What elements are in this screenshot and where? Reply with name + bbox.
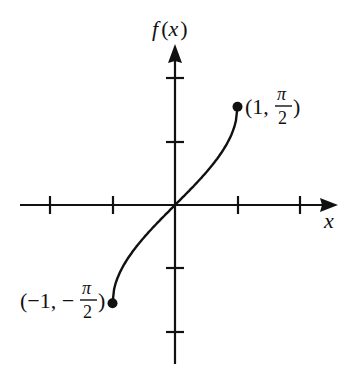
- function-graph: f(x) x (1, π 2 ) (−1, − π 2 ): [0, 0, 354, 370]
- y-axis-arrow-icon: [168, 44, 182, 63]
- svg-text:2: 2: [278, 108, 287, 128]
- endpoint-bottom: [108, 298, 118, 308]
- svg-text:π: π: [82, 278, 92, 298]
- svg-text:(−1, −: (−1, −: [20, 288, 74, 313]
- svg-text:π: π: [277, 84, 287, 104]
- x-axis-label: x: [323, 208, 334, 233]
- bottom-point-label: (−1, − π 2 ): [20, 278, 105, 322]
- top-point-label: (1, π 2 ): [245, 84, 300, 128]
- svg-text:2: 2: [83, 302, 92, 322]
- endpoint-top: [233, 102, 243, 112]
- svg-text:): ): [293, 94, 300, 119]
- y-axis-label: f(x): [152, 16, 188, 41]
- svg-text:(1,: (1,: [245, 94, 269, 119]
- svg-text:): ): [98, 288, 105, 313]
